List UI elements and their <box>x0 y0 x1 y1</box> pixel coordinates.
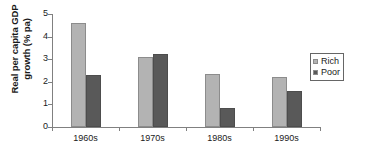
bar-group <box>138 14 168 127</box>
y-tick-label: 5 <box>43 8 48 18</box>
x-axis-label-1990s: 1990s <box>257 133 317 143</box>
bar-rich-1980s <box>205 74 220 127</box>
plot-area: 012345 1960s1970s1980s1990s <box>52 14 320 127</box>
bar-group <box>205 14 235 127</box>
bar-poor-1980s <box>220 108 235 127</box>
y-axis-title-line-1: Real per capita GDP <box>9 0 21 109</box>
bar-chart: Real per capita GDP growth (% pa) 012345… <box>0 0 365 155</box>
bar-rich-1990s <box>272 77 287 127</box>
legend-label-rich: Rich <box>321 56 339 67</box>
bar-rich-1960s <box>71 23 86 127</box>
y-tick-mark <box>48 59 53 60</box>
y-tick-mark <box>48 104 53 105</box>
x-tick-mark <box>186 127 187 131</box>
legend-item-poor: Poor <box>313 67 340 78</box>
y-tick-label: 1 <box>43 98 48 108</box>
bar-group <box>272 14 302 127</box>
x-tick-mark <box>320 127 321 131</box>
bar-poor-1990s <box>287 91 302 127</box>
y-tick: 2 <box>52 82 53 83</box>
bar-rich-1970s <box>138 57 153 127</box>
y-axis-title-line-2: growth (% pa) <box>21 0 33 109</box>
x-tick-mark <box>253 127 254 131</box>
bar-group <box>71 14 101 127</box>
x-tick-mark <box>119 127 120 131</box>
bar-poor-1970s <box>153 54 168 127</box>
x-axis-label-1980s: 1980s <box>190 133 250 143</box>
y-tick: 3 <box>52 59 53 60</box>
y-tick: 1 <box>52 104 53 105</box>
y-tick-label: 4 <box>43 31 48 41</box>
y-axis-line <box>52 14 53 127</box>
y-tick-label: 3 <box>43 53 48 63</box>
legend-swatch-poor-icon <box>313 70 318 75</box>
x-axis-label-1960s: 1960s <box>56 133 116 143</box>
y-tick-mark <box>48 14 53 15</box>
legend-item-rich: Rich <box>313 56 340 67</box>
bar-poor-1960s <box>86 75 101 127</box>
y-axis-title: Real per capita GDP growth (% pa) <box>9 0 39 109</box>
y-tick: 5 <box>52 14 53 15</box>
legend-label-poor: Poor <box>321 67 340 78</box>
legend: Rich Poor <box>310 53 344 81</box>
x-tick-mark <box>52 127 53 131</box>
y-tick-mark <box>48 82 53 83</box>
y-tick-label: 0 <box>43 121 48 131</box>
legend-swatch-rich-icon <box>313 59 318 64</box>
y-tick-label: 2 <box>43 76 48 86</box>
y-tick-mark <box>48 37 53 38</box>
y-tick: 4 <box>52 37 53 38</box>
x-axis-label-1970s: 1970s <box>123 133 183 143</box>
